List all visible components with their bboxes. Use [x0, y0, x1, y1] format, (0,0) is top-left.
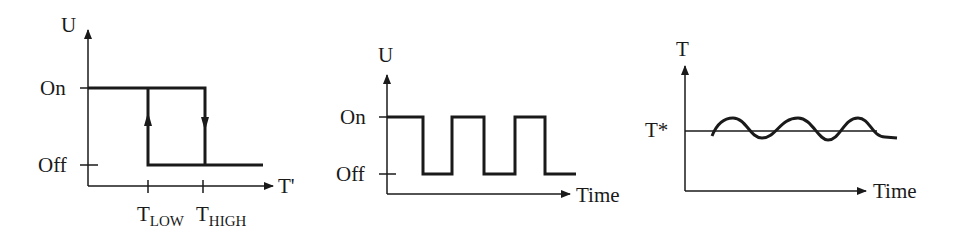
y-axis-label: U	[61, 15, 76, 36]
down-arrow-icon	[201, 117, 209, 131]
t-high-label: THIGH	[196, 204, 246, 225]
setpoint-label: T*	[645, 120, 668, 141]
on-level-label: On	[340, 107, 366, 128]
on-level-label: On	[40, 78, 66, 99]
y-axis-label: U	[378, 45, 393, 66]
x-axis-label: Time	[873, 181, 917, 202]
y-axis-label: T	[676, 39, 689, 60]
on-off-signal-diagram	[379, 75, 576, 194]
temperature-wave	[712, 118, 897, 140]
off-level-label: Off	[38, 155, 67, 176]
off-level-label: Off	[336, 164, 365, 185]
temperature-diagram	[685, 66, 897, 191]
x-axis-label: T'	[278, 176, 295, 197]
x-axis-label: Time	[576, 185, 620, 206]
hysteresis-diagram	[80, 30, 273, 193]
t-low-label: TLOW	[137, 204, 184, 225]
control-diagrams-canvas	[0, 0, 960, 233]
square-wave	[387, 117, 576, 174]
up-arrow-icon	[144, 112, 152, 126]
